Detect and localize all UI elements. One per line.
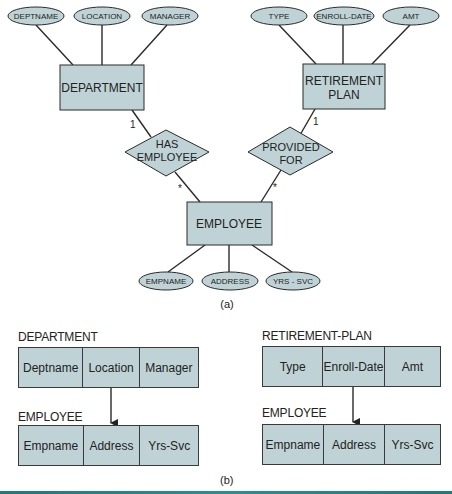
relationship-has-employee-label-1: HAS [156, 138, 179, 150]
entity-employee-label: EMPLOYEE [196, 217, 262, 231]
left-child-table: Empname Address Yrs-Svc [18, 425, 199, 466]
left-child-title: EMPLOYEE [18, 410, 82, 424]
cell-empname-right: Empname [263, 425, 324, 465]
relationship-provided-for-label-2: FOR [279, 154, 302, 166]
attr-manager-label: MANAGER [150, 12, 191, 21]
attr-yrs-svc-label: YRS - SVC [273, 277, 313, 286]
cell-enroll-date: Enroll-Date [323, 347, 384, 387]
entity-department-label: DEPARTMENT [61, 81, 143, 95]
cell-location: Location [83, 348, 139, 388]
right-child-table: Empname Address Yrs-Svc [262, 424, 441, 465]
cardinality-emp-many-right: * [273, 182, 277, 193]
cell-type: Type [263, 347, 323, 387]
caption-a: (a) [220, 298, 233, 310]
cell-yrs-svc: Yrs-Svc [140, 426, 199, 466]
cardinality-plan-one: 1 [313, 116, 319, 127]
right-parent-title: RETIREMENT-PLAN [262, 329, 372, 343]
attr-address-label: ADDRESS [211, 277, 250, 286]
attr-deptname-label: DEPTNAME [14, 12, 58, 21]
cell-address: Address [83, 426, 140, 466]
cell-address-right: Address [323, 425, 384, 465]
attr-location-label: LOCATION [82, 12, 123, 21]
cardinality-emp-many-left: * [178, 183, 182, 194]
attr-empname-label: EMPNAME [146, 277, 186, 286]
relationship-provided-for-label-1: PROVIDED [262, 141, 320, 153]
right-child-title: EMPLOYEE [262, 406, 326, 420]
attr-amt-label: AMT [403, 12, 420, 21]
entity-retirement-plan-label-2: PLAN [328, 88, 359, 102]
cell-yrs-svc-right: Yrs-Svc [385, 425, 441, 465]
left-parent-title: DEPARTMENT [18, 330, 98, 344]
cell-deptname: Deptname [19, 348, 83, 388]
cell-empname: Empname [19, 426, 84, 466]
cardinality-dept-one: 1 [130, 119, 136, 130]
attr-type-label: TYPE [269, 12, 290, 21]
right-parent-table: Type Enroll-Date Amt [262, 346, 441, 387]
cell-amt: Amt [384, 347, 440, 387]
caption-b: (b) [220, 474, 233, 486]
relationship-has-employee-label-2: EMPLOYEE [137, 151, 198, 163]
entity-retirement-plan-label-1: RETIREMENT [305, 74, 384, 88]
left-parent-table: Deptname Location Manager [18, 347, 199, 388]
attr-enroll-date-label: ENROLL-DATE [316, 12, 371, 21]
cell-manager: Manager [139, 348, 198, 388]
